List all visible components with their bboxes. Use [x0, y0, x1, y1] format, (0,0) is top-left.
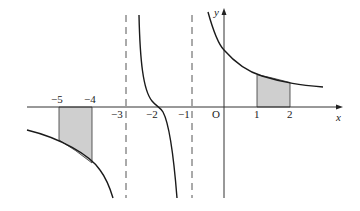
tick-label-minus-3: −3: [111, 108, 123, 120]
x-axis-arrow-icon: [336, 105, 343, 110]
origin-label: O: [212, 108, 220, 120]
shaded-region-left: [59, 107, 92, 163]
tick-label-2: 2: [287, 108, 293, 120]
tick-label-minus-1: −1: [178, 108, 190, 120]
x-axis-label: x: [335, 111, 341, 123]
tick-label-minus-5: −5: [51, 93, 63, 105]
tick-label-1: 1: [254, 108, 260, 120]
curve-right-branch: [208, 12, 323, 87]
tick-label-minus-2: −2: [146, 108, 158, 120]
tick-label-minus-4: −4: [84, 93, 96, 105]
y-axis-label: y: [213, 6, 219, 18]
y-axis-arrow-icon: [222, 8, 227, 15]
function-graph: −5 −4 −3 −2 −1 O 1 2 x y: [0, 0, 360, 211]
